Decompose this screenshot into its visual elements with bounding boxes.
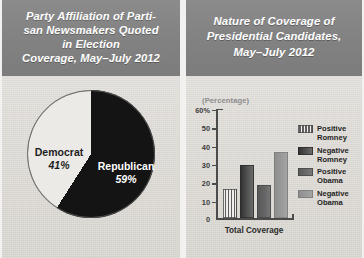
- legend-item-negative-romney: Negative Romney: [298, 146, 360, 164]
- y-tick-40: [212, 147, 217, 148]
- right-title-line-1: Nature of Coverage of: [207, 14, 342, 29]
- y-tick-label-50: 50: [202, 124, 210, 133]
- y-tick-30: [212, 165, 217, 166]
- y-tick-50: [212, 128, 217, 129]
- y-tick-label-30: 30: [202, 161, 210, 170]
- y-tick-20: [212, 183, 217, 184]
- left-title-line-4: Coverage, May–July 2012: [22, 51, 160, 65]
- legend-label-negative-obama-line-2: Obama: [317, 198, 349, 207]
- x-axis-line: [216, 218, 294, 220]
- bar-positive-romney: [223, 189, 237, 218]
- legend-label-negative-obama-line-1: Negative: [317, 189, 349, 198]
- x-axis-right-cap: [292, 214, 294, 220]
- y-tick-label-20: 20: [202, 179, 210, 188]
- legend-label-positive-obama: Positive Obama: [317, 167, 346, 185]
- left-title-line-3: in Election: [22, 37, 160, 51]
- bar-positive-obama: [257, 185, 271, 218]
- right-panel-nature-of-coverage: Nature of Coverage of Presidential Candi…: [186, 0, 362, 258]
- x-axis-category-label: Total Coverage: [208, 226, 300, 235]
- legend-swatch-positive-romney-icon: [298, 125, 313, 133]
- legend-item-negative-obama: Negative Obama: [298, 189, 360, 207]
- left-panel-title: Party Affiliation of Parti- san Newsmake…: [22, 9, 160, 66]
- right-title-line-3: May–July 2012: [207, 45, 342, 60]
- left-title-line-1: Party Affiliation of Parti-: [22, 9, 160, 23]
- pie-chart-area: Democrat 41% Republican 59%: [2, 76, 180, 258]
- legend-label-positive-romney: Positive Romney: [317, 124, 347, 142]
- legend-label-negative-obama: Negative Obama: [317, 189, 349, 207]
- pie-slice-democrat-name: Democrat: [35, 146, 83, 158]
- right-title-line-2: Presidential Candidates,: [207, 29, 342, 44]
- pie-slice-republican-name: Republican: [98, 160, 155, 172]
- y-tick-label-0: 0: [206, 215, 210, 224]
- bar-chart-legend: Positive Romney Negative Romney Positive: [298, 124, 360, 210]
- bar-negative-romney: [240, 165, 254, 218]
- y-tick-label-10: 10: [202, 197, 210, 206]
- bar-group-total-coverage: [223, 110, 288, 218]
- left-panel-party-affiliation: Party Affiliation of Parti- san Newsmake…: [2, 0, 180, 258]
- pie-slice-label-republican: Republican 59%: [88, 160, 164, 186]
- y-tick-label-40: 40: [202, 142, 210, 151]
- legend-swatch-negative-obama-icon: [298, 190, 313, 198]
- legend-label-positive-obama-line-1: Positive: [317, 167, 346, 176]
- right-panel-title: Nature of Coverage of Presidential Candi…: [207, 14, 342, 60]
- legend-label-negative-romney: Negative Romney: [317, 146, 349, 164]
- legend-swatch-negative-romney-icon: [298, 147, 313, 155]
- y-axis-top-cap: [216, 109, 223, 111]
- left-title-line-2: san Newsmakers Quoted: [22, 23, 160, 37]
- figure-container: Party Affiliation of Parti- san Newsmake…: [0, 0, 364, 258]
- pie-slice-label-democrat: Democrat 41%: [26, 146, 92, 172]
- pie-slice-democrat-value: 41%: [26, 159, 92, 172]
- legend-label-positive-romney-line-1: Positive: [317, 124, 346, 133]
- bar-negative-obama: [274, 152, 288, 218]
- legend-label-negative-romney-line-1: Negative: [317, 146, 349, 155]
- y-tick-10: [212, 202, 217, 203]
- legend-label-positive-romney-line-2: Romney: [317, 133, 347, 142]
- y-tick-60: [212, 110, 217, 111]
- legend-item-positive-romney: Positive Romney: [298, 124, 360, 142]
- legend-item-positive-obama: Positive Obama: [298, 167, 360, 185]
- bar-chart-area: (Percentage) 60% 50 40 30 20 10 0: [186, 76, 362, 258]
- y-axis-caption: (Percentage): [202, 96, 249, 105]
- legend-label-positive-obama-line-2: Obama: [317, 176, 346, 185]
- y-tick-label-60: 60%: [195, 106, 210, 115]
- left-panel-header: Party Affiliation of Parti- san Newsmake…: [2, 0, 180, 76]
- bar-chart-plot: 60% 50 40 30 20 10 0: [216, 110, 294, 220]
- right-panel-header: Nature of Coverage of Presidential Candi…: [186, 0, 362, 76]
- legend-swatch-positive-obama-icon: [298, 168, 313, 176]
- pie-slice-republican-value: 59%: [88, 173, 164, 186]
- legend-label-negative-romney-line-2: Romney: [317, 155, 349, 164]
